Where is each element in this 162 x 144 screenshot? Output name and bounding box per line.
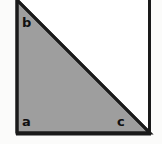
vertex-label-c: c (117, 115, 125, 128)
vertex-label-a: a (22, 115, 31, 128)
vertex-label-b: b (22, 16, 31, 29)
triangle-figure: b a c (0, 0, 162, 144)
